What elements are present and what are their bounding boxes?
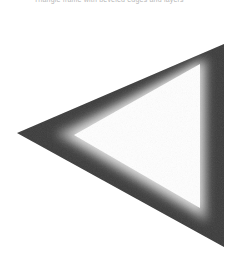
triangle-frame-icon <box>0 0 235 259</box>
